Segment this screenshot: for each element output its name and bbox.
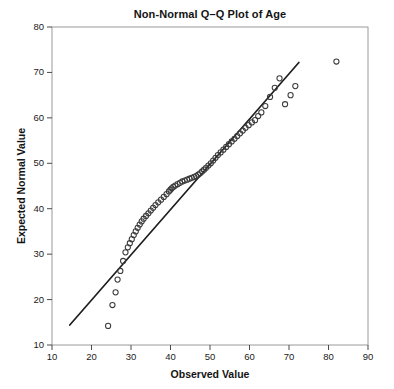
data-point xyxy=(263,103,268,108)
x-tick-label: 40 xyxy=(158,351,184,362)
qq-plot-figure: Non-Normal Q–Q Plot of Age Observed Valu… xyxy=(0,0,394,389)
x-tick-label: 90 xyxy=(355,351,381,362)
data-point xyxy=(118,268,123,273)
data-point xyxy=(259,110,264,115)
data-point xyxy=(334,59,339,64)
y-tick-label: 30 xyxy=(20,248,44,260)
data-point xyxy=(115,277,120,282)
y-tick-label: 40 xyxy=(20,203,44,215)
x-tick-label: 60 xyxy=(237,351,263,362)
data-point xyxy=(282,102,287,107)
reference-line xyxy=(70,62,299,325)
y-tick-label: 50 xyxy=(20,157,44,169)
x-tick-label: 10 xyxy=(39,351,65,362)
x-tick-label: 70 xyxy=(276,351,302,362)
data-point xyxy=(123,250,128,255)
plot-canvas xyxy=(0,0,394,389)
y-tick-label: 20 xyxy=(20,294,44,306)
data-point xyxy=(293,83,298,88)
data-points xyxy=(105,59,339,329)
data-point xyxy=(110,302,115,307)
x-tick-label: 80 xyxy=(316,351,342,362)
y-tick-label: 60 xyxy=(20,112,44,124)
data-point xyxy=(288,93,293,98)
y-tick-label: 70 xyxy=(20,66,44,78)
y-tick-label: 80 xyxy=(20,21,44,33)
x-tick-label: 20 xyxy=(79,351,105,362)
data-point xyxy=(113,290,118,295)
data-point xyxy=(105,323,110,328)
x-tick-label: 30 xyxy=(118,351,144,362)
y-tick-label: 10 xyxy=(20,339,44,351)
axis-ticks xyxy=(47,27,368,350)
x-tick-label: 50 xyxy=(197,351,223,362)
plot-frame xyxy=(52,27,368,345)
data-point xyxy=(277,76,282,81)
